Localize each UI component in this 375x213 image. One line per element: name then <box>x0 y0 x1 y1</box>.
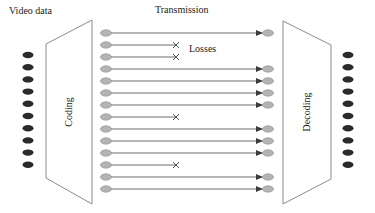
received-packet <box>263 30 274 36</box>
source-frame-dot <box>23 101 34 107</box>
lost-packet-row <box>101 42 180 48</box>
output-frames <box>343 52 354 168</box>
coding-label: Coding <box>63 97 74 126</box>
source-frame-dot <box>23 76 34 82</box>
output-frame-dot <box>343 88 354 94</box>
sent-packet <box>101 150 112 156</box>
sent-packet <box>101 54 112 60</box>
delivered-packet-row <box>101 138 274 144</box>
received-packet <box>263 90 274 96</box>
lost-packet-row <box>101 162 180 168</box>
delivered-packet-row <box>101 174 274 180</box>
output-frame-dot <box>343 52 354 58</box>
delivered-packet-row <box>101 102 274 108</box>
video-data-label: Video data <box>9 5 52 16</box>
output-frame-dot <box>343 137 354 143</box>
sent-packet <box>101 66 112 72</box>
source-frame-dot <box>23 125 34 131</box>
received-packet <box>263 174 274 180</box>
output-frame-dot <box>343 162 354 168</box>
transmission-label: Transmission <box>155 4 209 15</box>
received-packet <box>263 66 274 72</box>
received-packet <box>263 186 274 192</box>
sent-packet <box>101 126 112 132</box>
losses-label: Losses <box>189 43 216 54</box>
source-frames <box>23 52 34 168</box>
delivered-packet-row <box>101 66 274 72</box>
packet-streams <box>101 30 274 192</box>
received-packet <box>263 150 274 156</box>
diagram-canvas: Coding Decoding <box>0 0 375 213</box>
source-frame-dot <box>23 162 34 168</box>
decoding-label: Decoding <box>301 93 312 132</box>
sent-packet <box>101 162 112 168</box>
sent-packet <box>101 78 112 84</box>
lost-packet-row <box>101 54 180 60</box>
sent-packet <box>101 102 112 108</box>
received-packet <box>263 78 274 84</box>
source-frame-dot <box>23 52 34 58</box>
sent-packet <box>101 174 112 180</box>
output-frame-dot <box>343 149 354 155</box>
delivered-packet-row <box>101 30 274 36</box>
output-frame-dot <box>343 64 354 70</box>
sent-packet <box>101 138 112 144</box>
received-packet <box>263 126 274 132</box>
sent-packet <box>101 186 112 192</box>
sent-packet <box>101 90 112 96</box>
sent-packet <box>101 114 112 120</box>
received-packet <box>263 102 274 108</box>
source-frame-dot <box>23 149 34 155</box>
transmission-diagram: Coding Decoding Video data Transmission … <box>0 0 375 213</box>
output-frame-dot <box>343 113 354 119</box>
delivered-packet-row <box>101 186 274 192</box>
delivered-packet-row <box>101 78 274 84</box>
delivered-packet-row <box>101 90 274 96</box>
sent-packet <box>101 42 112 48</box>
lost-packet-row <box>101 114 180 120</box>
output-frame-dot <box>343 76 354 82</box>
output-frame-dot <box>343 101 354 107</box>
sent-packet <box>101 30 112 36</box>
received-packet <box>263 138 274 144</box>
source-frame-dot <box>23 113 34 119</box>
output-frame-dot <box>343 125 354 131</box>
source-frame-dot <box>23 64 34 70</box>
delivered-packet-row <box>101 126 274 132</box>
source-frame-dot <box>23 137 34 143</box>
source-frame-dot <box>23 88 34 94</box>
delivered-packet-row <box>101 150 274 156</box>
